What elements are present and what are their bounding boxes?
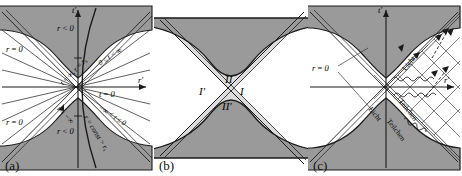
label-r-negative-lower: r < 0 xyxy=(57,127,74,136)
axis-label-t-prime-c: t′ xyxy=(378,6,382,15)
panel-b-caption: (b) xyxy=(159,158,174,174)
panel-b-graphic xyxy=(154,0,308,176)
region-label-II-prime: II′ xyxy=(222,101,232,112)
axis-label-r-prime-c: r′ xyxy=(444,76,449,85)
label-r-zero-c: r = 0 xyxy=(312,64,329,73)
panel-c-caption: (c) xyxy=(313,158,327,174)
region-label-II: II xyxy=(225,74,232,85)
label-t-equals-zero: t = 0 xyxy=(99,90,115,99)
label-r-zero-lower-left: r = 0 xyxy=(6,118,23,127)
panel-a: r = 0 r = 0 r < 0 r < 0 t = 0 t′ r′ 0 ≤ … xyxy=(0,0,154,176)
label-r-zero-upper-left: r = 0 xyxy=(6,45,23,54)
axis-label-t-prime-a: t′ xyxy=(72,6,76,15)
region-label-I: I xyxy=(240,86,244,97)
axis-label-r-prime-a: r′ xyxy=(138,76,143,85)
region-label-I-prime: I′ xyxy=(199,86,205,97)
panel-b: II I′ I II′ (b) xyxy=(154,0,308,176)
panel-a-caption: (a) xyxy=(5,158,19,174)
panel-c-graphic xyxy=(308,0,462,176)
panel-c: r = 0 t′ r′ Licht Teilchen Licht Teilche… xyxy=(308,0,462,176)
figure-container: r = 0 r = 0 r < 0 r < 0 t = 0 t′ r′ 0 ≤ … xyxy=(0,0,462,176)
label-r-negative-upper: r < 0 xyxy=(57,24,74,33)
panel-a-graphic xyxy=(0,0,154,176)
